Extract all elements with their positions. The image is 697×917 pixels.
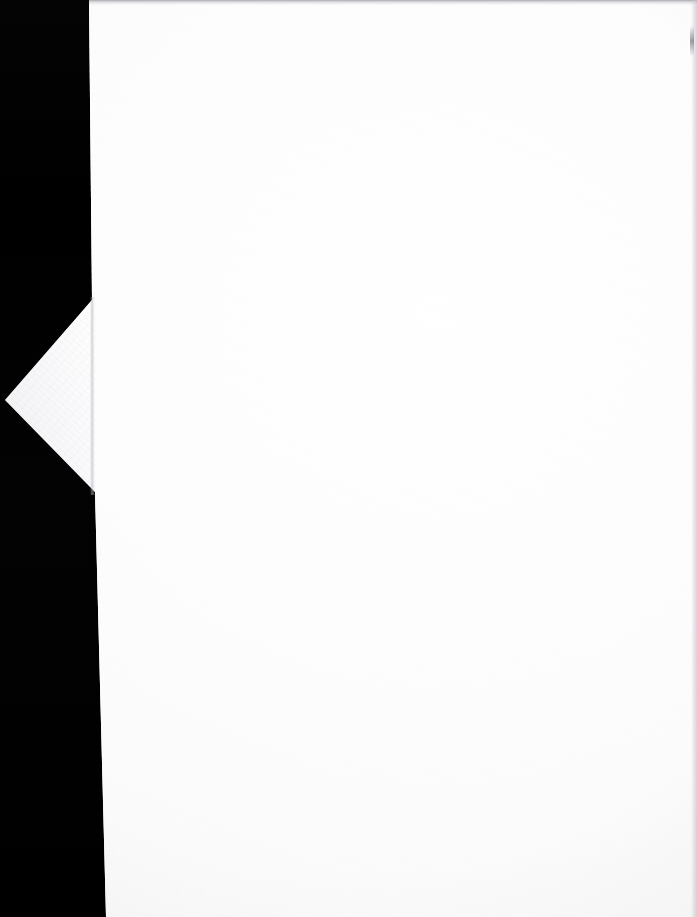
- scanned-page-canvas: [0, 0, 697, 917]
- paper-grain-texture: [0, 0, 697, 917]
- paper-illumination-shading: [0, 0, 697, 917]
- paper-sheet: [0, 0, 697, 917]
